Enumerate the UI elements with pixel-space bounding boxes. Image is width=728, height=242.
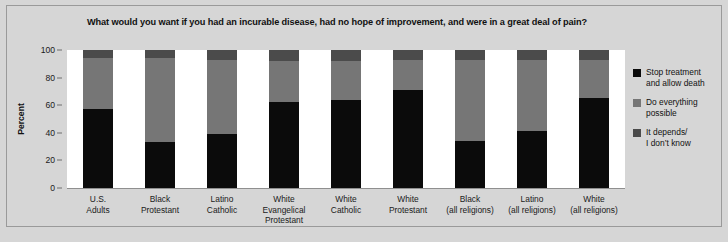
bar-segment-it-depends[interactable] — [331, 50, 361, 61]
bar-segment-stop-treatment[interactable] — [579, 98, 609, 188]
stacked-bar[interactable] — [331, 50, 361, 188]
bar-segment-it-depends[interactable] — [455, 50, 485, 60]
bar-segment-do-everything[interactable] — [393, 60, 423, 90]
x-axis-category-line: Latino — [501, 194, 563, 205]
x-axis-category-line: Protestant — [253, 215, 315, 226]
bar-segment-stop-treatment[interactable] — [517, 131, 547, 188]
legend-label-line: I don’t know — [646, 138, 728, 149]
legend-item-it-depends[interactable]: It depends/I don’t know — [633, 127, 728, 148]
legend-label-line: and allow death — [646, 78, 728, 89]
stacked-bar[interactable] — [455, 50, 485, 188]
bar-segment-do-everything[interactable] — [579, 60, 609, 99]
x-axis: U.S.AdultsBlackProtestantLatinoCatholicW… — [67, 194, 625, 236]
stacked-bar[interactable] — [83, 50, 113, 188]
bar-segment-do-everything[interactable] — [207, 60, 237, 135]
bar-segment-do-everything[interactable] — [83, 58, 113, 109]
bar-segment-stop-treatment[interactable] — [269, 102, 299, 188]
chart-title: What would you want if you had an incura… — [7, 17, 667, 28]
bar-group — [129, 50, 191, 188]
bar-segment-do-everything[interactable] — [145, 58, 175, 142]
bar-group — [315, 50, 377, 188]
legend-label: It depends/I don’t know — [646, 127, 728, 148]
stacked-bar[interactable] — [393, 50, 423, 188]
bar-segment-stop-treatment[interactable] — [145, 142, 175, 188]
legend-item-stop-treatment[interactable]: Stop treatmentand allow death — [633, 67, 728, 88]
legend-label-line: It depends/ — [646, 127, 728, 138]
x-axis-category-line: Catholic — [191, 205, 253, 216]
bar-group — [563, 50, 625, 188]
bar-group — [67, 50, 129, 188]
x-axis-category-label: Latino(all religions) — [501, 194, 563, 215]
bar-segment-do-everything[interactable] — [455, 60, 485, 141]
x-axis-category-line: Evangelical — [253, 205, 315, 216]
bar-segment-it-depends[interactable] — [393, 50, 423, 60]
chart-panel: What would you want if you had an incura… — [6, 5, 722, 227]
y-axis: Percent 020406080100 — [7, 44, 67, 194]
legend-label-line: Do everything — [646, 97, 728, 108]
bar-segment-it-depends[interactable] — [579, 50, 609, 60]
x-axis-category-line: Protestant — [129, 205, 191, 216]
y-tick-mark — [57, 188, 62, 189]
y-axis-title: Percent — [16, 71, 26, 167]
bar-segment-it-depends[interactable] — [83, 50, 113, 58]
legend-item-do-everything[interactable]: Do everythingpossible — [633, 97, 728, 118]
y-tick-label: 60 — [45, 100, 55, 110]
bar-segment-it-depends[interactable] — [207, 50, 237, 60]
y-tick-label: 0 — [50, 183, 55, 193]
stacked-bar[interactable] — [145, 50, 175, 188]
x-axis-category-line: (all religions) — [501, 205, 563, 216]
bar-segment-stop-treatment[interactable] — [83, 109, 113, 188]
x-axis-category-label: U.S.Adults — [67, 194, 129, 215]
x-axis-category-line: White — [377, 194, 439, 205]
x-axis-category-label: WhiteProtestant — [377, 194, 439, 215]
x-axis-category-line: Black — [129, 194, 191, 205]
y-tick-mark — [57, 132, 62, 133]
x-axis-category-label: White(all religions) — [563, 194, 625, 215]
bar-segment-it-depends[interactable] — [517, 50, 547, 60]
x-axis-category-line: Catholic — [315, 205, 377, 216]
legend-swatch-icon — [633, 99, 641, 107]
y-tick-label: 40 — [45, 128, 55, 138]
stacked-bar[interactable] — [517, 50, 547, 188]
legend-swatch-icon — [633, 69, 641, 77]
legend-label-line: Stop treatment — [646, 67, 728, 78]
bar-group — [253, 50, 315, 188]
plot-area-wrapper — [67, 50, 625, 188]
stacked-bar[interactable] — [579, 50, 609, 188]
x-axis-category-line: White — [315, 194, 377, 205]
bar-segment-it-depends[interactable] — [269, 50, 299, 61]
bar-segment-do-everything[interactable] — [269, 61, 299, 102]
bar-group — [191, 50, 253, 188]
bar-segment-it-depends[interactable] — [145, 50, 175, 58]
y-tick-label: 80 — [45, 73, 55, 83]
bar-segment-stop-treatment[interactable] — [207, 134, 237, 188]
x-axis-category-line: Latino — [191, 194, 253, 205]
legend-label: Do everythingpossible — [646, 97, 728, 118]
bar-segment-stop-treatment[interactable] — [455, 141, 485, 188]
x-axis-category-line: Adults — [67, 205, 129, 216]
bar-segment-stop-treatment[interactable] — [331, 100, 361, 188]
x-axis-category-line: (all religions) — [439, 205, 501, 216]
x-axis-category-label: WhiteCatholic — [315, 194, 377, 215]
x-axis-category-line: White — [253, 194, 315, 205]
x-axis-category-line: U.S. — [67, 194, 129, 205]
x-axis-category-label: LatinoCatholic — [191, 194, 253, 215]
bar-segment-stop-treatment[interactable] — [393, 90, 423, 188]
legend-label-line: possible — [646, 108, 728, 119]
stacked-bar[interactable] — [207, 50, 237, 188]
bar-group — [439, 50, 501, 188]
x-axis-category-label: BlackProtestant — [129, 194, 191, 215]
legend-label: Stop treatmentand allow death — [646, 67, 728, 88]
y-tick-mark — [57, 77, 62, 78]
legend-swatch-icon — [633, 129, 641, 137]
stacked-bar[interactable] — [269, 50, 299, 188]
chart-figure: What would you want if you had an incura… — [0, 0, 728, 242]
y-tick-mark — [57, 160, 62, 161]
x-axis-category-label: WhiteEvangelicalProtestant — [253, 194, 315, 226]
bar-segment-do-everything[interactable] — [517, 60, 547, 132]
bar-segment-do-everything[interactable] — [331, 61, 361, 100]
y-tick-label: 20 — [45, 155, 55, 165]
x-axis-baseline — [67, 188, 625, 189]
y-tick-mark — [57, 105, 62, 106]
bar-group — [377, 50, 439, 188]
